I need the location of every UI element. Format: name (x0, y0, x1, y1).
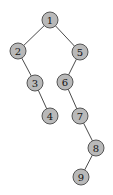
node-label: 9 (78, 172, 84, 183)
node-label: 6 (62, 77, 68, 88)
node-label: 5 (77, 47, 83, 58)
tree-svg: 125364789 (0, 0, 113, 195)
edges-group (18, 20, 96, 177)
tree-node-2: 2 (10, 43, 26, 59)
node-label: 4 (47, 111, 53, 122)
node-label: 1 (47, 15, 53, 26)
node-label: 7 (77, 111, 83, 122)
tree-node-3: 3 (27, 75, 43, 91)
tree-node-1: 1 (42, 12, 58, 28)
node-label: 3 (32, 78, 38, 89)
tree-node-8: 8 (88, 140, 104, 156)
tree-node-4: 4 (42, 108, 58, 124)
node-label: 8 (93, 143, 99, 154)
tree-node-7: 7 (72, 108, 88, 124)
tree-node-9: 9 (73, 169, 89, 185)
tree-diagram: 125364789 (0, 0, 113, 195)
tree-node-6: 6 (57, 74, 73, 90)
tree-node-5: 5 (72, 44, 88, 60)
node-label: 2 (15, 46, 21, 57)
